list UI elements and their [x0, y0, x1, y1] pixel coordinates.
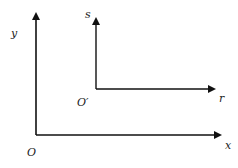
coordinate-frames-diagram	[0, 0, 238, 168]
frame-o-prime	[96, 19, 214, 89]
x-axis-label: x	[225, 140, 231, 151]
s-axis-label: s	[85, 9, 91, 20]
origin-o-prime-label: O′	[77, 97, 89, 108]
r-axis-label: r	[219, 93, 224, 104]
y-axis-label: y	[11, 28, 17, 39]
origin-o-label: O	[27, 147, 36, 158]
frame-o	[36, 14, 220, 135]
